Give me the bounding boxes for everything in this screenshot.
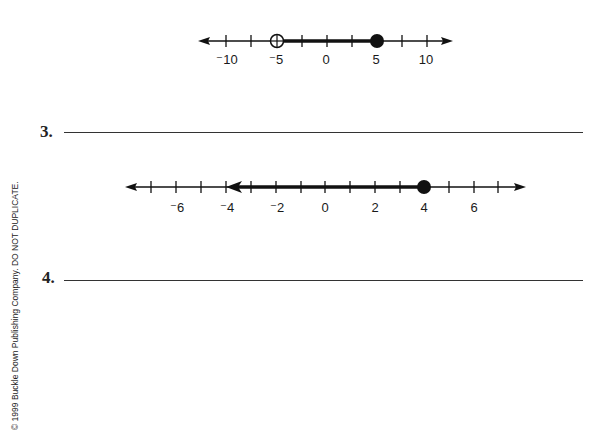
tick-label: 5 [372,52,379,67]
tick-label: ⁻4 [220,200,234,215]
closed-point-icon [370,34,384,48]
number-line-2-graphic [0,150,613,230]
problem-3-number: 3. [40,122,53,142]
tick-label: 6 [470,200,477,215]
tick-label: 4 [420,200,427,215]
closed-point-icon [417,180,431,194]
number-line-1-graphic [0,0,613,90]
tick-label: ⁻5 [269,52,283,67]
tick-label: 0 [321,200,328,215]
tick-label: 0 [322,52,329,67]
problem-3-answer-line[interactable] [64,132,583,133]
tick-label: ⁻6 [170,200,184,215]
tick-label: ⁻10 [216,52,237,67]
problem-4-number: 4. [42,268,55,288]
tick-label: 10 [419,52,433,67]
tick-label: 2 [371,200,378,215]
number-line-2: ⁻6 ⁻4 ⁻2 0 2 4 6 [0,150,613,230]
copyright-notice: © 1999 Buckle Down Publishing Company. D… [10,181,20,430]
tick-label: ⁻2 [270,200,284,215]
number-line-1: ⁻10 ⁻5 0 5 10 [0,0,613,90]
problem-4-answer-line[interactable] [64,280,583,281]
